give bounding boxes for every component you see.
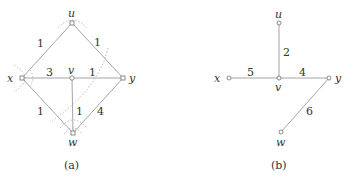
edge-b-y-w — [281, 78, 329, 132]
node-b-x — [227, 76, 231, 80]
label-a-u: u — [68, 7, 75, 20]
label-a-x: x — [7, 72, 14, 85]
figure-a: u x v y w 1 1 3 1 1 1 4 (a) — [7, 7, 136, 172]
edge-a-x-w — [22, 78, 73, 133]
label-b-x: x — [214, 72, 221, 85]
weight-a-x-w: 1 — [37, 105, 44, 118]
weight-b-y-w: 6 — [306, 105, 313, 118]
node-b-y — [327, 76, 331, 80]
weight-a-u-x: 1 — [37, 37, 44, 50]
node-a-y — [121, 76, 125, 80]
weight-b-u-v: 2 — [283, 46, 290, 59]
weight-a-u-y: 1 — [94, 36, 101, 49]
diagram-canvas: u x v y w 1 1 3 1 1 1 4 (a) u x v y w 2 … — [0, 0, 348, 181]
label-b-y: y — [334, 72, 342, 85]
node-a-u — [70, 21, 74, 25]
label-b-v: v — [275, 81, 282, 94]
weight-b-v-y: 4 — [299, 66, 306, 79]
node-b-v — [277, 76, 281, 80]
label-a-v: v — [68, 64, 75, 77]
caption-b: (b) — [271, 159, 287, 172]
weight-a-v-y: 1 — [89, 66, 96, 79]
caption-a: (a) — [64, 159, 79, 172]
weight-a-v-w: 1 — [76, 105, 83, 118]
label-b-u: u — [275, 8, 282, 21]
node-b-w — [279, 130, 283, 134]
weight-b-x-v: 5 — [247, 66, 254, 79]
weight-a-y-w: 4 — [97, 105, 104, 118]
label-a-w: w — [68, 136, 78, 149]
node-b-u — [277, 21, 281, 25]
edge-a-v-w — [72, 78, 73, 133]
weight-a-x-v: 3 — [46, 66, 53, 79]
edge-a-u-y — [72, 23, 123, 78]
node-a-w — [71, 131, 75, 135]
label-a-y: y — [128, 72, 136, 85]
label-b-w: w — [276, 136, 286, 149]
figure-b: u x v y w 2 5 4 6 (b) — [214, 8, 342, 172]
node-a-x — [20, 76, 24, 80]
